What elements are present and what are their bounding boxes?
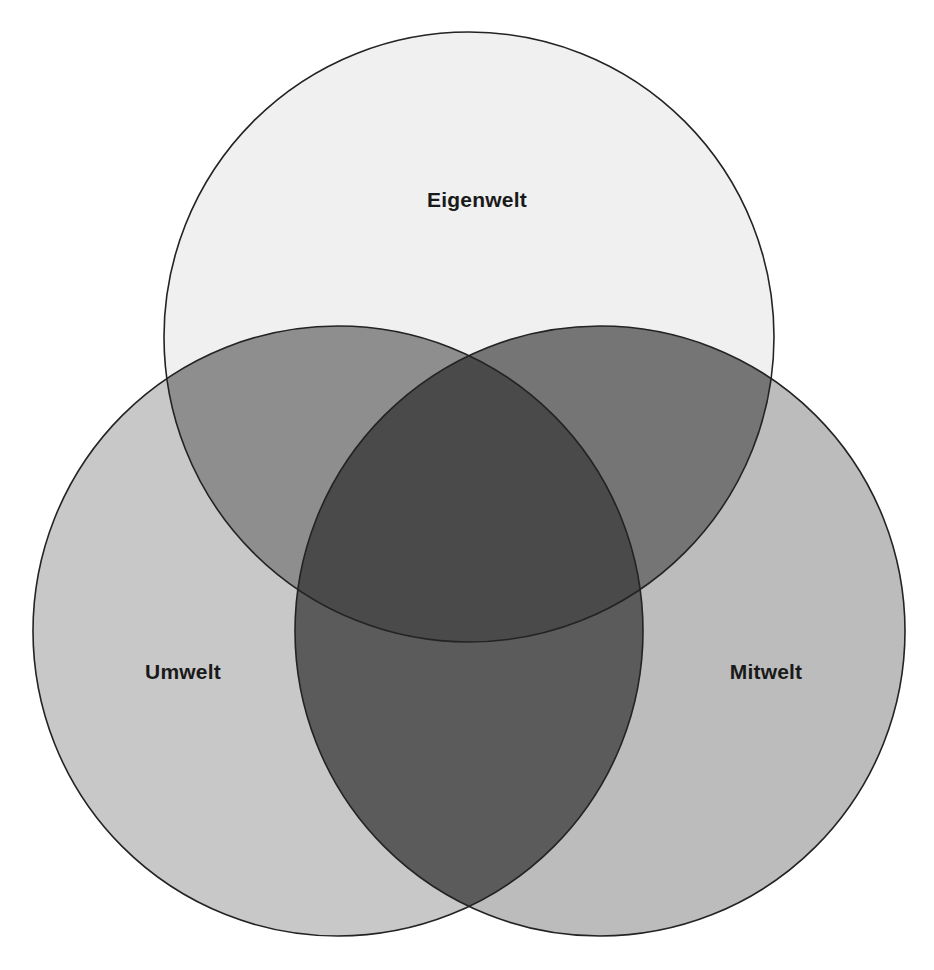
venn-diagram-canvas: Eigenwelt Umwelt Mitwelt [0,0,934,970]
set-label-mitwelt: Mitwelt [730,660,803,683]
set-label-eigenwelt: Eigenwelt [427,188,527,211]
venn-diagram-figure: Eigenwelt Umwelt Mitwelt [0,0,934,970]
set-label-umwelt: Umwelt [145,660,221,683]
